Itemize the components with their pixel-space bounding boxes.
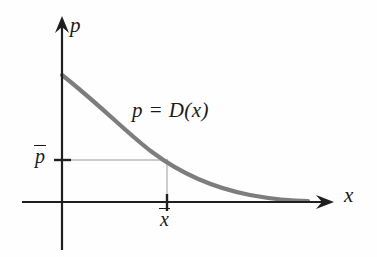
xbar-glyph: x (160, 209, 169, 229)
x-axis-tick-label-xbar: x (160, 209, 169, 229)
curve-equation-label: p = D(x) (132, 100, 209, 121)
demand-curve-figure: p x p = D(x) p x (0, 0, 377, 257)
figure-canvas (0, 0, 377, 257)
pbar-glyph: p (35, 146, 45, 166)
demand-curve (62, 75, 308, 201)
y-axis-tick-label-pbar: p (35, 146, 45, 166)
x-axis-label: x (344, 185, 353, 206)
y-axis-label: p (70, 15, 81, 36)
